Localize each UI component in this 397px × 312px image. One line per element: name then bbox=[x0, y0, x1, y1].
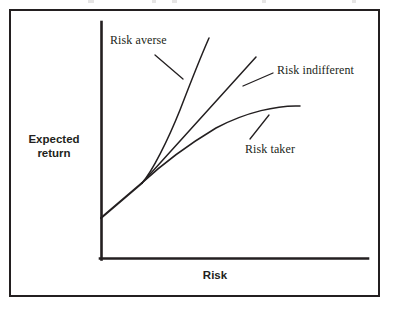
curve-risk-indifferent bbox=[142, 57, 256, 183]
curve-label-risk-averse: Risk averse bbox=[110, 33, 167, 48]
y-axis-label-line-2: return bbox=[14, 146, 94, 160]
leader-line-risk-taker bbox=[250, 115, 269, 139]
y-axis-label: Expected return bbox=[14, 132, 94, 160]
x-axis-label: Risk bbox=[175, 268, 255, 282]
leader-line-risk-averse bbox=[155, 55, 183, 79]
leader-line-risk-indifferent bbox=[243, 73, 273, 86]
y-axis-label-line-1: Expected bbox=[14, 132, 94, 146]
curve-label-risk-indifferent: Risk indifferent bbox=[277, 63, 354, 78]
figure-container: Expected return Risk Risk averse Risk in… bbox=[0, 0, 397, 312]
curve-risk-averse bbox=[142, 38, 209, 183]
shared-stem-segment bbox=[101, 183, 142, 218]
curve-label-risk-taker: Risk taker bbox=[245, 142, 295, 157]
